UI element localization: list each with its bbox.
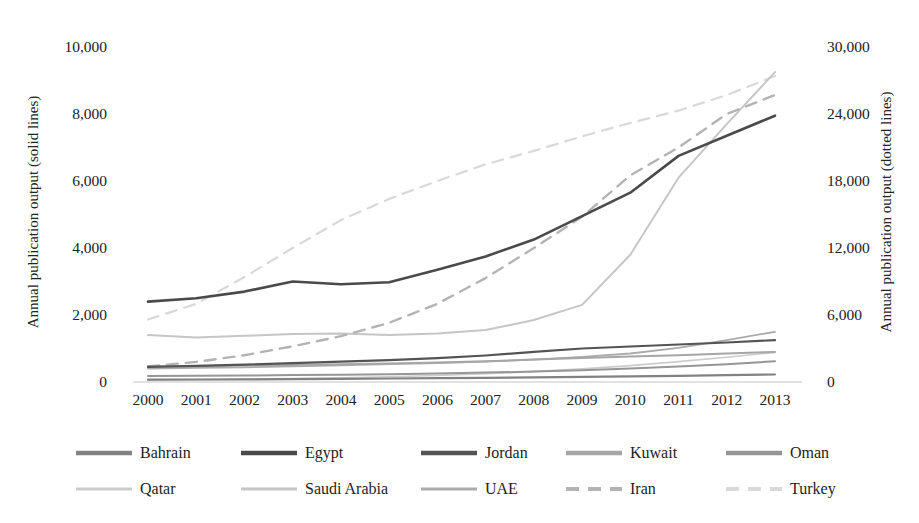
legend-item-egypt: Egypt xyxy=(240,443,343,463)
legend-item-iran: Iran xyxy=(565,479,656,499)
legend-item-uae: UAE xyxy=(420,479,518,499)
x-tick: 2006 xyxy=(411,391,463,409)
x-tick: 2013 xyxy=(749,391,801,409)
legend-label: UAE xyxy=(485,480,518,498)
y-tick-left: 2,000 xyxy=(35,307,107,323)
legend-item-jordan: Jordan xyxy=(420,443,528,463)
series-line-egypt xyxy=(148,116,775,302)
y-tick-right: 6,000 xyxy=(827,307,899,323)
y-tick-right: 30,000 xyxy=(827,39,899,55)
x-tick: 2002 xyxy=(218,391,270,409)
x-tick: 2011 xyxy=(653,391,705,409)
legend-item-oman: Oman xyxy=(725,443,829,463)
legend-label: Egypt xyxy=(305,444,343,462)
legend-item-saudi-arabia: Saudi Arabia xyxy=(240,479,388,499)
x-tick: 2009 xyxy=(556,391,608,409)
y-tick-right: 18,000 xyxy=(827,173,899,189)
x-tick: 2001 xyxy=(170,391,222,409)
legend-item-qatar: Qatar xyxy=(75,479,176,499)
x-tick: 2004 xyxy=(315,391,367,409)
legend-label: Oman xyxy=(790,444,829,462)
chart-figure: Annual publication output (solid lines) … xyxy=(0,0,919,523)
legend-label: Bahrain xyxy=(140,444,191,462)
y-tick-right: 0 xyxy=(827,374,899,390)
y-tick-left: 10,000 xyxy=(35,39,107,55)
series-line-uae xyxy=(148,332,775,369)
y-tick-left: 4,000 xyxy=(35,240,107,256)
x-tick: 2005 xyxy=(363,391,415,409)
legend-swatch-solid-icon xyxy=(75,448,133,458)
series-line-iran xyxy=(148,95,775,366)
legend-item-turkey: Turkey xyxy=(725,479,836,499)
series-line-turkey xyxy=(148,76,775,320)
legend-label: Saudi Arabia xyxy=(305,480,388,498)
x-tick: 2000 xyxy=(122,391,174,409)
legend-swatch-dashed-icon xyxy=(565,484,623,494)
y-tick-left: 6,000 xyxy=(35,173,107,189)
x-tick: 2010 xyxy=(604,391,656,409)
legend-label: Iran xyxy=(630,480,656,498)
legend-swatch-solid-icon xyxy=(75,484,133,494)
y-tick-right: 24,000 xyxy=(827,106,899,122)
y-tick-right: 12,000 xyxy=(827,240,899,256)
legend-swatch-solid-icon xyxy=(240,448,298,458)
legend-item-bahrain: Bahrain xyxy=(75,443,191,463)
legend-item-kuwait: Kuwait xyxy=(565,443,677,463)
legend-swatch-solid-icon xyxy=(725,448,783,458)
x-tick: 2008 xyxy=(508,391,560,409)
x-tick: 2012 xyxy=(701,391,753,409)
legend-label: Turkey xyxy=(790,480,836,498)
legend-swatch-solid-icon xyxy=(565,448,623,458)
series-line-oman xyxy=(148,361,775,376)
x-tick: 2003 xyxy=(267,391,319,409)
legend-swatch-solid-icon xyxy=(240,484,298,494)
y-tick-left: 0 xyxy=(35,374,107,390)
legend-label: Qatar xyxy=(140,480,176,498)
legend-label: Jordan xyxy=(485,444,528,462)
legend-swatch-dashed-icon xyxy=(725,484,783,494)
legend-swatch-solid-icon xyxy=(420,484,478,494)
legend-swatch-solid-icon xyxy=(420,448,478,458)
legend-label: Kuwait xyxy=(630,444,677,462)
x-tick: 2007 xyxy=(460,391,512,409)
series-line-saudi-arabia xyxy=(148,72,775,337)
y-tick-left: 8,000 xyxy=(35,106,107,122)
